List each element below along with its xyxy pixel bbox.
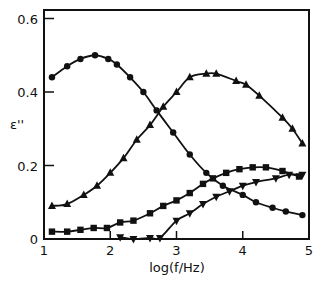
marker-circle xyxy=(299,212,305,218)
y-tick-label: 0.2 xyxy=(17,159,38,174)
x-axis-label: log(f/Hz) xyxy=(149,260,205,275)
x-tick-label: 5 xyxy=(305,243,313,258)
marker-triangle-down xyxy=(199,201,207,209)
marker-square xyxy=(147,210,153,216)
marker-circle xyxy=(203,170,209,176)
marker-circle xyxy=(140,89,146,95)
marker-square xyxy=(173,197,179,203)
marker-circle xyxy=(170,129,176,135)
plot-frame xyxy=(44,10,309,239)
axis-ticks: 1234500.20.40.6 xyxy=(17,12,313,259)
data-markers xyxy=(48,52,306,243)
marker-circle xyxy=(64,63,70,69)
marker-square xyxy=(187,190,193,196)
plot-border xyxy=(44,10,309,239)
marker-square xyxy=(200,181,206,187)
y-tick-label: 0 xyxy=(30,232,38,247)
marker-square xyxy=(104,225,110,231)
marker-square xyxy=(236,166,242,172)
marker-square xyxy=(279,168,285,174)
marker-circle xyxy=(77,56,83,62)
marker-square xyxy=(90,225,96,231)
marker-circle xyxy=(127,74,133,80)
marker-circle xyxy=(187,151,193,157)
y-tick-label: 0.4 xyxy=(17,85,38,100)
marker-circle xyxy=(269,205,275,211)
marker-square xyxy=(77,227,83,233)
marker-square xyxy=(263,164,269,170)
marker-square xyxy=(210,175,216,181)
marker-circle xyxy=(105,56,111,62)
marker-circle xyxy=(253,199,259,205)
marker-circle xyxy=(114,61,120,67)
marker-circle xyxy=(283,208,289,214)
marker-circle xyxy=(49,74,55,80)
x-tick-label: 2 xyxy=(106,243,114,258)
marker-circle xyxy=(153,107,159,113)
x-tick-label: 3 xyxy=(172,243,180,258)
y-axis-label: ε'' xyxy=(10,117,24,132)
x-tick-label: 4 xyxy=(239,243,247,258)
y-tick-label: 0.6 xyxy=(17,12,38,27)
dielectric-loss-chart: 1234500.20.40.6 log(f/Hz) ε'' xyxy=(0,0,319,284)
marker-circle xyxy=(92,52,98,58)
marker-square xyxy=(117,219,123,225)
marker-circle xyxy=(240,192,246,198)
data-curves xyxy=(52,55,302,239)
marker-square xyxy=(49,228,55,234)
marker-square xyxy=(223,170,229,176)
x-tick-label: 1 xyxy=(40,243,48,258)
marker-square xyxy=(160,203,166,209)
marker-square xyxy=(249,164,255,170)
marker-square xyxy=(64,228,70,234)
marker-square xyxy=(130,217,136,223)
marker-circle xyxy=(220,183,226,189)
